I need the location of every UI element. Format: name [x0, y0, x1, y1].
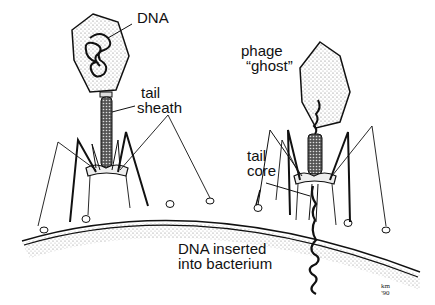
left-phage: [38, 14, 210, 226]
label-ghost: “ghost”: [246, 58, 293, 74]
artist-signature: km '90: [381, 283, 390, 297]
label-dna-inserted-2: into bacterium: [178, 256, 272, 272]
label-tail-core-2: core: [247, 163, 276, 179]
signature-year: '90: [381, 290, 390, 297]
label-dna: DNA: [137, 10, 169, 26]
label-tail-sheath-2: sheath: [137, 100, 182, 116]
phage-diagram: DNA tail sheath phage “ghost” tail core …: [0, 0, 435, 305]
